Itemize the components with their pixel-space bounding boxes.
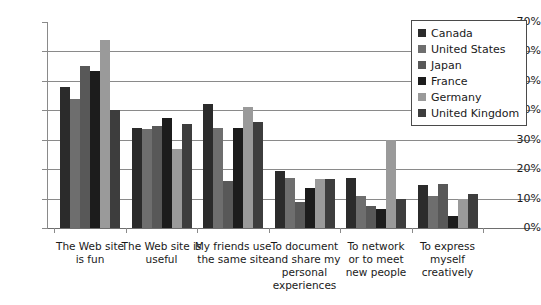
legend-item: United States [418, 41, 521, 57]
legend-swatch-icon [418, 29, 426, 37]
bar [90, 71, 100, 228]
legend-swatch-icon [418, 77, 426, 85]
legend-label: France [431, 76, 468, 87]
bar-group [341, 22, 411, 228]
bar [376, 209, 386, 228]
bar [70, 99, 80, 228]
bar [468, 194, 478, 228]
bar [223, 181, 233, 228]
legend: CanadaUnited StatesJapanFranceGermanyUni… [411, 20, 527, 126]
bar [275, 171, 285, 228]
legend-label: United States [431, 44, 506, 55]
legend-item: United Kingdom [418, 105, 521, 121]
bar [305, 188, 315, 228]
bar [438, 184, 448, 228]
bar [172, 149, 182, 228]
bar [80, 66, 90, 228]
x-axis-category-label-line: personal [264, 266, 346, 279]
bar [132, 128, 142, 228]
legend-item: Germany [418, 89, 521, 105]
x-tick-mark [269, 228, 270, 233]
legend-label: Canada [431, 28, 473, 39]
bar [243, 107, 253, 228]
bar-chart: 70%60%50%40%30%20%10%0% The Web siteis f… [0, 0, 541, 305]
y-tick-mark [42, 228, 47, 229]
x-tick-mark [483, 228, 484, 233]
bar [295, 202, 305, 228]
bar [448, 216, 458, 228]
bar [203, 104, 213, 228]
bar [386, 140, 396, 228]
bar [325, 179, 335, 228]
bar [285, 178, 295, 228]
x-tick-mark [126, 228, 127, 233]
bar [182, 124, 192, 228]
legend-label: Germany [431, 92, 482, 103]
bar-group [270, 22, 340, 228]
bar [213, 128, 223, 228]
bar [428, 196, 438, 228]
x-axis-category-label: The Web site isuseful [121, 240, 203, 266]
x-axis-category-label-line: useful [121, 253, 203, 266]
bar [162, 118, 172, 228]
x-tick-mark [340, 228, 341, 233]
x-axis-category-label-line: and share my [264, 253, 346, 266]
x-axis-category-label-line: or to meet [335, 253, 417, 266]
legend-swatch-icon [418, 93, 426, 101]
bar-group [127, 22, 197, 228]
x-axis-category-label-line: the same site [192, 253, 274, 266]
x-axis-category-label-line: To document [264, 240, 346, 253]
legend-swatch-icon [418, 61, 426, 69]
bar [418, 185, 428, 228]
bar [346, 178, 356, 228]
x-axis-category-label: To documentand share mypersonalexperienc… [264, 240, 346, 292]
x-axis-category-label-line: The Web site [49, 240, 131, 253]
bar [315, 179, 325, 228]
bar [110, 110, 120, 228]
bar-group [55, 22, 125, 228]
legend-swatch-icon [418, 109, 426, 117]
legend-item: France [418, 73, 521, 89]
legend-item: Japan [418, 57, 521, 73]
x-tick-mark [54, 228, 55, 233]
x-axis-category-label-line: To network [335, 240, 417, 253]
x-axis-category-label: To networkor to meetnew people [335, 240, 417, 279]
x-axis-category-label-line: experiences [264, 279, 346, 292]
bar [100, 40, 110, 228]
x-axis-category-label-line: To express [407, 240, 489, 253]
x-axis-category-label-line: is fun [49, 253, 131, 266]
x-axis-category-label-line: myself creatively [407, 253, 489, 279]
x-axis-category-label-line: The Web site is [121, 240, 203, 253]
x-tick-mark [197, 228, 198, 233]
legend-swatch-icon [418, 45, 426, 53]
gridline-0 [47, 228, 535, 229]
x-axis-category-label: The Web siteis fun [49, 240, 131, 266]
bar [142, 129, 152, 228]
legend-item: Canada [418, 25, 521, 41]
bar [396, 199, 406, 228]
x-axis-category-label: My friends usethe same site [192, 240, 274, 266]
bar [458, 199, 468, 228]
bar [60, 87, 70, 228]
bar [233, 128, 243, 228]
bar [366, 206, 376, 228]
bar-group [198, 22, 268, 228]
bar [253, 122, 263, 228]
x-axis-category-label: To expressmyself creatively [407, 240, 489, 279]
bar [152, 126, 162, 228]
x-tick-mark [412, 228, 413, 233]
legend-label: Japan [431, 60, 462, 71]
x-axis-category-label-line: My friends use [192, 240, 274, 253]
legend-label: United Kingdom [431, 108, 519, 119]
x-axis-category-label-line: new people [335, 266, 417, 279]
bar [356, 196, 366, 228]
